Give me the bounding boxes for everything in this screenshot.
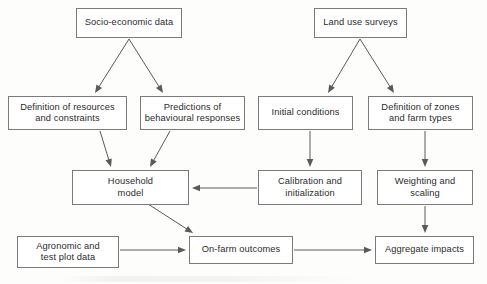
edge-socio-to-definition bbox=[95, 39, 129, 93]
node-predictions_behavioural: Predictions of behavioural responses bbox=[140, 96, 245, 130]
edge-initial-to-calibration bbox=[307, 131, 314, 167]
flowchart-diagram: Socio-economic dataLand use surveysDefin… bbox=[0, 0, 487, 284]
edge-socio-to-predictions bbox=[129, 39, 163, 93]
edge-zones-to-weighting bbox=[422, 131, 429, 167]
node-agronomic_test_plot_data: Agronomic and test plot data bbox=[17, 236, 119, 268]
node-label: Aggregate impacts bbox=[385, 244, 464, 255]
node-label: Socio-economic data bbox=[85, 17, 174, 28]
node-initial_conditions: Initial conditions bbox=[258, 96, 353, 130]
node-calibration_initialization: Calibration and initialization bbox=[258, 170, 362, 205]
edge-household-to-onfarm bbox=[148, 204, 193, 233]
page-edge-artifact bbox=[60, 276, 360, 282]
node-label: Weighting and scaling bbox=[395, 176, 455, 199]
edge-definition-to-household bbox=[100, 131, 112, 167]
node-aggregate_impacts: Aggregate impacts bbox=[375, 236, 474, 264]
node-land_use_surveys: Land use surveys bbox=[314, 8, 407, 38]
node-weighting_scaling: Weighting and scaling bbox=[377, 170, 473, 205]
node-definition_of_zones: Definition of zones and farm types bbox=[368, 96, 473, 130]
edge-agronomic-to-onfarm bbox=[120, 247, 186, 254]
node-label: Household model bbox=[108, 176, 153, 199]
node-label: Initial conditions bbox=[272, 107, 340, 118]
edge-weighting-to-aggregate bbox=[422, 206, 429, 233]
node-label: Calibration and initialization bbox=[278, 176, 342, 199]
edge-onfarm-to-aggregate bbox=[294, 247, 372, 254]
edge-predictions-to-household bbox=[150, 131, 170, 167]
node-label: Definition of zones and farm types bbox=[381, 102, 459, 125]
edge-landuse-to-zones bbox=[360, 39, 394, 93]
edge-calibration-to-household bbox=[192, 185, 257, 192]
node-socio_economic_data: Socio-economic data bbox=[76, 8, 182, 38]
node-household_model: Household model bbox=[72, 170, 189, 205]
node-label: Land use surveys bbox=[323, 17, 397, 28]
node-label: On-farm outcomes bbox=[202, 244, 280, 255]
node-label: Definition of resources and constraints bbox=[20, 102, 115, 125]
node-definition_of_resources: Definition of resources and constraints bbox=[8, 96, 127, 130]
node-label: Predictions of behavioural responses bbox=[145, 102, 241, 125]
edge-landuse-to-initial bbox=[328, 39, 360, 93]
node-label: Agronomic and test plot data bbox=[36, 241, 100, 264]
node-on_farm_outcomes: On-farm outcomes bbox=[189, 236, 293, 264]
